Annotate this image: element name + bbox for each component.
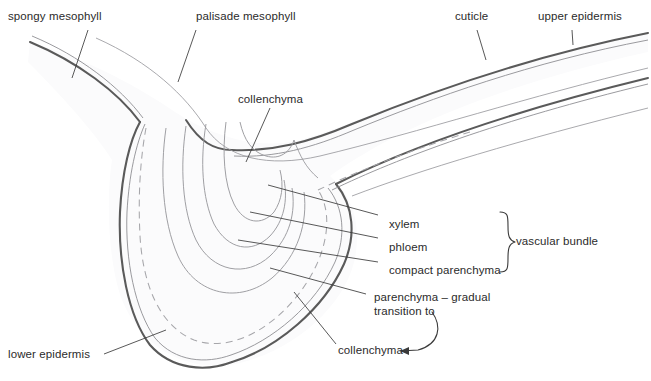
label-palisade-mesophyll: palisade mesophyll <box>196 10 296 24</box>
label-compact-parenchyma: compact parenchyma <box>389 264 501 278</box>
label-vascular-bundle: vascular bundle <box>516 235 598 249</box>
vascular-bundle-brace <box>500 212 515 272</box>
label-parenchyma-line2: transition to <box>374 305 435 319</box>
label-cuticle: cuticle <box>455 10 488 24</box>
label-spongy-mesophyll: spongy mesophyll <box>8 10 102 24</box>
label-upper-epidermis: upper epidermis <box>538 10 622 24</box>
leaf-cross-section-diagram: spongy mesophyll palisade mesophyll cuti… <box>0 0 651 381</box>
label-lower-epidermis: lower epidermis <box>8 348 90 362</box>
leader-palisade-mesophyll <box>178 30 196 82</box>
diagram-artwork <box>0 0 651 381</box>
leader-upper-epidermis <box>572 30 573 45</box>
label-parenchyma-line1: parenchyma – gradual <box>374 291 490 305</box>
label-collenchyma-top: collenchyma <box>238 93 303 107</box>
label-collenchyma-bottom: collenchyma <box>338 344 403 358</box>
label-phloem: phloem <box>389 241 427 255</box>
label-xylem: xylem <box>389 218 420 232</box>
leader-cuticle <box>477 30 486 60</box>
